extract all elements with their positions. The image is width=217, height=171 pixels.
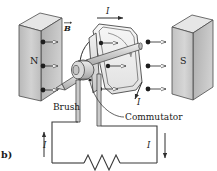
current-label-coil: I bbox=[137, 98, 140, 107]
panel-label: b) bbox=[1, 150, 12, 160]
magnet-south bbox=[172, 15, 213, 100]
resistor-zigzag bbox=[84, 155, 120, 170]
magnetic-field-label-text: B bbox=[64, 23, 71, 33]
brush-label: Brush bbox=[53, 103, 80, 112]
magnet-south-label: S bbox=[180, 56, 187, 66]
figure-root: N S B I I I I Brush Commutator b) bbox=[0, 0, 217, 171]
field-arrow-6 bbox=[146, 87, 166, 92]
magnet-north bbox=[19, 13, 62, 101]
vector-arrow-icon bbox=[64, 21, 72, 24]
commutator-hub bbox=[72, 60, 95, 80]
current-label-top: I bbox=[106, 7, 109, 16]
current-label-circuit-right: I bbox=[147, 141, 150, 150]
circuit-wire-left bbox=[52, 122, 78, 163]
magnet-south-side-face bbox=[193, 20, 213, 100]
commutator-leader-dot bbox=[88, 78, 91, 81]
field-arrow-4 bbox=[146, 40, 166, 45]
brush-left bbox=[76, 80, 80, 122]
field-arrow-5 bbox=[146, 64, 166, 69]
magnet-north-label: N bbox=[30, 56, 38, 66]
commutator-label: Commutator bbox=[125, 113, 183, 122]
magnetic-field-label: B bbox=[64, 24, 71, 32]
current-label-circuit-left: I bbox=[43, 141, 46, 150]
field-arrows-right bbox=[146, 40, 166, 92]
dc-motor-diagram bbox=[0, 0, 217, 171]
